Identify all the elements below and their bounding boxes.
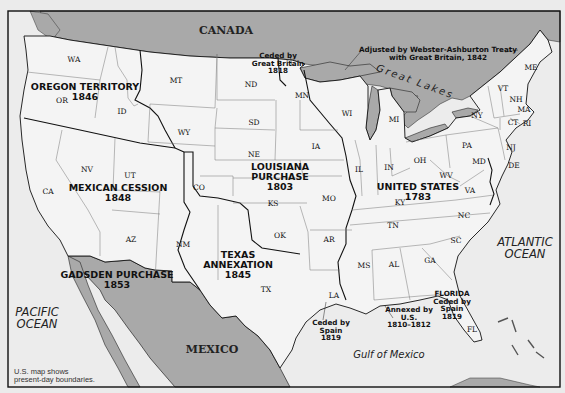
state-label-me-line: ME xyxy=(524,63,537,72)
map-caption-line: present-day boundaries. xyxy=(14,375,95,384)
state-label-fl: FL xyxy=(467,326,477,334)
state-label-vt: VT xyxy=(498,85,508,93)
state-label-la-line: LA xyxy=(329,291,339,300)
mexico-label: MEXICO xyxy=(186,344,239,356)
texas-annexation-label-line: 1845 xyxy=(225,269,251,280)
gulf-of-mexico-label-line: Gulf of Mexico xyxy=(353,349,424,360)
state-label-tn-line: TN xyxy=(387,221,399,230)
state-label-de-line: DE xyxy=(508,161,520,170)
state-label-ks: KS xyxy=(268,200,279,208)
state-label-wi-line: WI xyxy=(342,109,353,118)
ceded-by-great-britain-note: Ceded byGreat Britain1818 xyxy=(252,52,304,75)
state-label-oh-line: OH xyxy=(414,156,427,165)
webster-ashburton-note-line: with Great Britain, 1842 xyxy=(389,53,487,62)
state-label-ma: MA xyxy=(517,106,530,114)
state-label-ny: NY xyxy=(471,112,483,120)
florida-ceded-by-spain-note-line: 1819 xyxy=(442,312,462,321)
state-label-vt-line: VT xyxy=(498,84,508,93)
state-label-fl-line: FL xyxy=(467,325,477,334)
state-label-mo-line: MO xyxy=(322,194,336,203)
state-label-sd-line: SD xyxy=(248,118,259,127)
state-label-wi: WI xyxy=(342,110,353,118)
annexed-by-us-note: Annexed byU.S.1810–1812 xyxy=(385,306,433,329)
state-label-mt: MT xyxy=(170,77,183,85)
state-label-ri: RI xyxy=(523,120,532,128)
state-label-sc: SC xyxy=(451,237,462,245)
state-label-wv-line: WV xyxy=(439,171,452,180)
ceded-by-spain-1819-west-note-line: 1819 xyxy=(321,333,341,342)
state-label-nj-line: NJ xyxy=(506,143,516,152)
state-label-ks-line: KS xyxy=(268,199,279,208)
state-label-ok-line: OK xyxy=(274,231,286,240)
mexican-cession-label: MEXICAN CESSION1848 xyxy=(69,183,168,203)
state-label-ok: OK xyxy=(274,232,286,240)
state-label-ca-line: CA xyxy=(42,187,53,196)
pacific-ocean-label: PACIFICOCEAN xyxy=(15,306,59,330)
state-label-al: AL xyxy=(389,261,399,269)
state-label-nj: NJ xyxy=(506,144,516,152)
state-label-nc-line: NC xyxy=(458,211,470,220)
state-label-ma-line: MA xyxy=(517,105,530,114)
webster-ashburton-note: Adjusted by Webster-Ashburton Treatywith… xyxy=(359,46,517,61)
state-label-wv: WV xyxy=(439,172,452,180)
mexican-cession-label-line: 1848 xyxy=(105,192,131,203)
state-label-ky: KY xyxy=(395,199,405,207)
gadsden-purchase-label-line: 1853 xyxy=(104,279,130,290)
state-label-md-line: MD xyxy=(472,157,486,166)
state-label-ky-line: KY xyxy=(395,198,405,207)
state-label-la: LA xyxy=(329,292,339,300)
state-label-nh-line: NH xyxy=(509,95,522,104)
state-label-az-line: AZ xyxy=(126,235,137,244)
canada-label-line: CANADA xyxy=(199,24,253,37)
state-label-co-line: CO xyxy=(193,183,205,192)
state-label-ar: AR xyxy=(323,236,334,244)
state-label-va: VA xyxy=(465,187,475,195)
canada-label: CANADA xyxy=(199,25,253,37)
state-label-nm: NM xyxy=(176,241,190,249)
state-label-oh: OH xyxy=(414,157,427,165)
state-label-ga: GA xyxy=(424,257,435,265)
state-label-tx-line: TX xyxy=(261,285,271,294)
state-label-pa: PA xyxy=(462,142,472,150)
united-states-1783-label-line: 1783 xyxy=(405,191,431,202)
florida-ceded-by-spain-note: FLORIDACeded bySpain1819 xyxy=(433,290,471,320)
texas-annexation-label: TEXASANNEXATION1845 xyxy=(203,250,273,280)
state-label-mi: MI xyxy=(389,116,400,124)
state-label-ga-line: GA xyxy=(424,256,435,265)
louisiana-purchase-label-line: 1803 xyxy=(267,181,293,192)
state-label-ms-line: MS xyxy=(358,261,371,270)
annexed-by-us-note-line: 1810–1812 xyxy=(387,320,431,329)
state-label-ne-line: NE xyxy=(248,150,260,159)
state-label-in: IN xyxy=(384,164,394,172)
state-label-wa-line: WA xyxy=(68,55,81,64)
state-label-nv: NV xyxy=(81,166,93,174)
state-label-ct-line: CT xyxy=(508,118,519,127)
state-label-de: DE xyxy=(508,162,520,170)
state-label-mn: MN xyxy=(295,92,309,100)
state-label-nm-line: NM xyxy=(176,240,190,249)
state-label-ny-line: NY xyxy=(471,111,483,120)
state-label-nd: ND xyxy=(245,81,258,89)
state-label-pa-line: PA xyxy=(462,141,472,150)
state-label-id: ID xyxy=(118,108,127,116)
state-label-il-line: IL xyxy=(355,165,363,174)
state-label-sd: SD xyxy=(248,119,259,127)
state-label-wa: WA xyxy=(68,56,81,64)
state-label-tn: TN xyxy=(387,222,399,230)
state-label-wy-line: WY xyxy=(178,128,191,137)
state-label-il: IL xyxy=(355,166,363,174)
state-label-ri-line: RI xyxy=(523,119,532,128)
state-label-ia: IA xyxy=(312,143,320,151)
state-label-ut: UT xyxy=(124,172,135,180)
united-states-1783-label: UNITED STATES1783 xyxy=(377,182,459,202)
louisiana-purchase-label: LOUISIANAPURCHASE1803 xyxy=(251,162,309,192)
ceded-by-great-britain-note-line: 1818 xyxy=(268,66,288,75)
mexico-label-line: MEXICO xyxy=(186,343,239,356)
state-label-id-line: ID xyxy=(118,107,127,116)
state-label-nc: NC xyxy=(458,212,470,220)
state-label-me: ME xyxy=(524,64,537,72)
state-label-ia-line: IA xyxy=(312,142,320,151)
ceded-by-spain-1819-west-note: Ceded bySpain1819 xyxy=(312,319,350,342)
state-label-ar-line: AR xyxy=(323,235,334,244)
map-caption: U.S. map showspresent-day boundaries. xyxy=(14,368,95,385)
